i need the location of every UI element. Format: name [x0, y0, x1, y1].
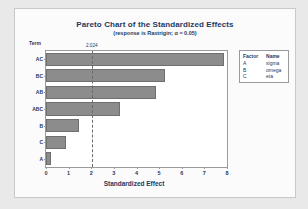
x-tick-mark	[46, 167, 47, 169]
bar-a	[46, 152, 51, 165]
x-tick-mark	[159, 167, 160, 169]
x-tick-label-5: 5	[158, 170, 161, 176]
x-tick-mark	[69, 167, 70, 169]
bar-c	[46, 136, 66, 149]
y-tick-label-bc: BC	[36, 73, 43, 79]
bar-abc	[46, 102, 120, 115]
y-tick-mark	[44, 76, 46, 77]
x-tick-label-3: 3	[112, 170, 115, 176]
y-axis-title: Term	[29, 40, 41, 46]
x-tick-mark	[91, 167, 92, 169]
x-tick-mark	[227, 167, 228, 169]
x-tick-label-6: 6	[180, 170, 183, 176]
chart-title: Pareto Chart of the Standardized Effects	[15, 20, 295, 29]
x-tick-mark	[182, 167, 183, 169]
bar-b	[46, 119, 79, 132]
plot-area: ACBCABABCBCA0123456782.024	[45, 50, 228, 168]
x-tick-label-8: 8	[225, 170, 228, 176]
chart-subtitle: (response is Rastrigin; α = 0.05)	[15, 30, 295, 36]
y-tick-mark	[44, 59, 46, 60]
bar-bc	[46, 69, 165, 82]
bar-ab	[46, 86, 156, 99]
y-tick-mark	[44, 126, 46, 127]
reference-line-label: 2.024	[86, 43, 98, 48]
y-tick-mark	[44, 92, 46, 93]
y-tick-mark	[44, 159, 46, 160]
x-tick-label-0: 0	[44, 170, 47, 176]
y-tick-label-ab: AB	[36, 89, 43, 95]
y-tick-label-ac: AC	[36, 56, 43, 62]
x-tick-label-4: 4	[135, 170, 138, 176]
x-tick-mark	[204, 167, 205, 169]
y-tick-mark	[44, 142, 46, 143]
x-tick-label-2: 2	[90, 170, 93, 176]
legend-row: Ceta	[243, 73, 285, 80]
legend-header-row: Factor Name	[243, 53, 285, 60]
legend-factor: C	[243, 73, 261, 80]
reference-line	[92, 51, 93, 167]
y-tick-label-c: C	[39, 139, 43, 145]
y-tick-label-abc: ABC	[32, 106, 43, 112]
legend-box: Factor Name AsigmaBomegaCeta	[239, 50, 289, 83]
legend-table: Factor Name AsigmaBomegaCeta	[243, 53, 285, 80]
x-tick-mark	[137, 167, 138, 169]
x-axis-title: Standardized Effect	[39, 180, 229, 187]
legend-header-factor: Factor	[243, 53, 261, 60]
legend-name: eta	[261, 73, 285, 80]
legend-header-name: Name	[261, 53, 285, 60]
x-tick-label-7: 7	[203, 170, 206, 176]
chart-figure: Pareto Chart of the Standardized Effects…	[14, 8, 296, 198]
x-tick-mark	[114, 167, 115, 169]
bar-ac	[46, 53, 224, 66]
y-tick-label-b: B	[39, 123, 43, 129]
y-tick-mark	[44, 109, 46, 110]
x-tick-label-1: 1	[67, 170, 70, 176]
y-tick-label-a: A	[39, 156, 43, 162]
